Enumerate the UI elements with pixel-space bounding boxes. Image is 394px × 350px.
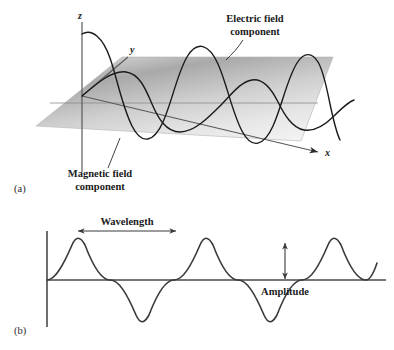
panel-a: z y x Electric field component Magnetic … bbox=[14, 10, 354, 195]
electric-field-callout-line1: Electric field bbox=[226, 13, 284, 24]
propagation-plane bbox=[36, 57, 333, 141]
electric-field-callout-line2: component bbox=[230, 26, 280, 37]
y-axis-label: y bbox=[129, 44, 135, 55]
magnetic-field-callout-line1: Magnetic field bbox=[68, 168, 133, 179]
x-axis-label: x bbox=[324, 147, 330, 158]
magnetic-field-leader-line bbox=[108, 138, 120, 168]
panel-a-label: (a) bbox=[14, 183, 26, 195]
panel-b: Wavelength Amplitude (b) bbox=[14, 216, 386, 337]
panel-b-label: (b) bbox=[14, 325, 27, 337]
z-axis-label: z bbox=[77, 10, 82, 21]
electromagnetic-wave-figure: z y x Electric field component Magnetic … bbox=[0, 0, 394, 350]
magnetic-field-callout-line2: component bbox=[75, 181, 125, 192]
wavelength-label: Wavelength bbox=[100, 216, 153, 227]
amplitude-label: Amplitude bbox=[261, 286, 309, 297]
